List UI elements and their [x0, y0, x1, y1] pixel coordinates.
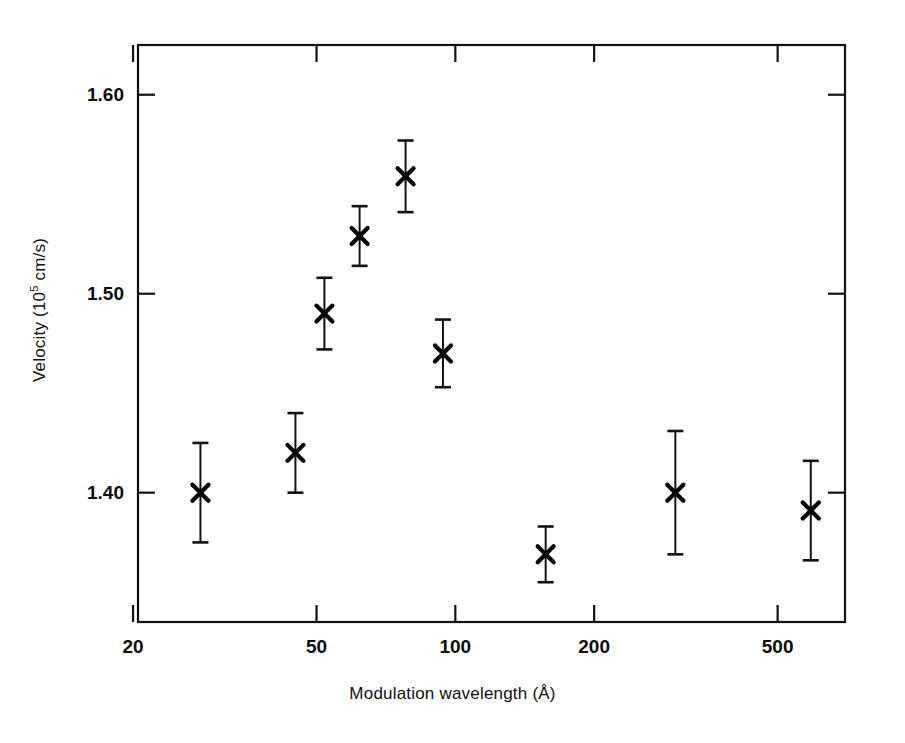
x-tick-label: 500 [762, 636, 794, 658]
y-axis-title-suffix: cm/s) [30, 238, 49, 285]
x-tick-label: 20 [122, 636, 143, 658]
plot-background [0, 0, 905, 743]
y-axis-title-prefix: Velocity (10 [30, 292, 49, 382]
y-axis-title-wrap: Velocity (105 cm/s) [18, 0, 62, 620]
x-axis-title: Modulation wavelength (Å) [0, 684, 905, 704]
y-axis-title-exponent: 5 [28, 285, 40, 291]
figure-canvas: 2050100200500 1.401.501.60 Modulation wa… [0, 0, 905, 743]
y-tick-label: 1.50 [56, 283, 124, 305]
y-tick-label: 1.40 [56, 482, 124, 504]
x-tick-label: 200 [578, 636, 610, 658]
x-tick-label: 50 [306, 636, 327, 658]
y-tick-label: 1.60 [56, 84, 124, 106]
y-axis-title: Velocity (105 cm/s) [30, 238, 50, 382]
x-tick-label: 100 [439, 636, 471, 658]
scatter-plot-with-error-bars [0, 0, 905, 743]
